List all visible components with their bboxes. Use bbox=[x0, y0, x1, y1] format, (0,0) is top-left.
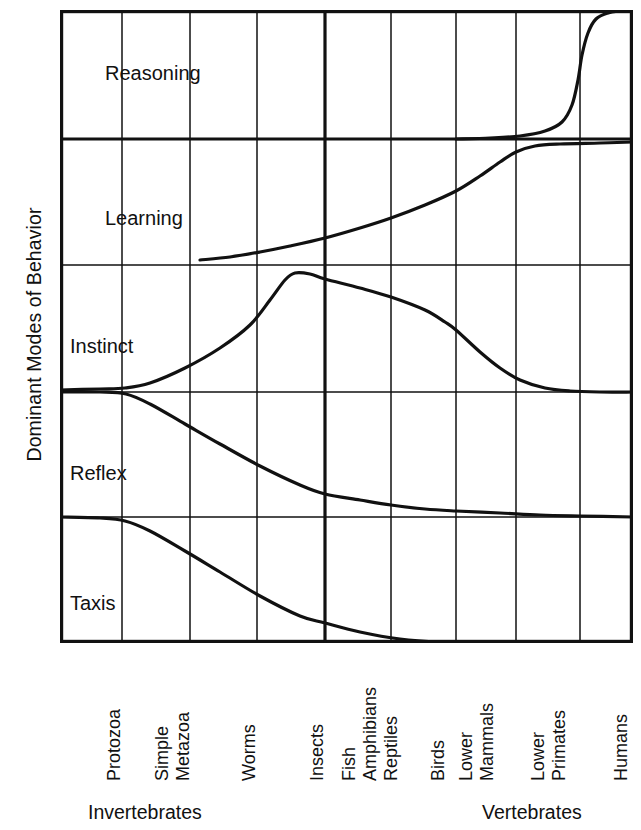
x-tick-amphibians: Amphibians bbox=[360, 687, 381, 781]
tick-label-line: Insects bbox=[307, 724, 327, 781]
tick-label-line: Birds bbox=[428, 740, 448, 781]
behavior-modes-chart-figure: Dominant Modes of Behavior ReasoningLear… bbox=[0, 0, 641, 830]
tick-label-line: Lower bbox=[456, 732, 476, 781]
tick-label-line: Humans bbox=[611, 714, 631, 781]
band-label-reflex: Reflex bbox=[70, 462, 127, 485]
x-tick-humans: Humans bbox=[611, 714, 632, 781]
curve-learning bbox=[200, 142, 633, 260]
band-label-reasoning: Reasoning bbox=[105, 62, 201, 85]
plot-area: ReasoningLearningInstinctReflexTaxis bbox=[60, 10, 633, 643]
x-tick-birds: Birds bbox=[428, 740, 449, 781]
x-tick-lower-mammals: LowerMammals bbox=[456, 703, 498, 781]
band-label-learning: Learning bbox=[105, 207, 183, 230]
vertical-gridlines bbox=[122, 10, 580, 643]
curve-reasoning bbox=[456, 10, 633, 139]
x-tick-fish: Fish bbox=[339, 747, 360, 781]
series-curves bbox=[60, 10, 633, 643]
tick-label-line: Protozoa bbox=[104, 709, 124, 781]
band-label-taxis: Taxis bbox=[70, 592, 116, 615]
tick-label-line: Fish bbox=[339, 747, 359, 781]
tick-label-line: Worms bbox=[239, 724, 259, 781]
tick-label-line: Metazoa bbox=[173, 712, 194, 781]
tick-label-line: Amphibians bbox=[360, 687, 380, 781]
curve-instinct bbox=[60, 273, 633, 392]
curve-taxis bbox=[60, 517, 633, 643]
y-axis-title: Dominant Modes of Behavior bbox=[23, 105, 46, 565]
x-tick-lower-primates: LowerPrimates bbox=[528, 710, 570, 781]
plot-frame bbox=[62, 12, 632, 642]
x-tick-simple-metazoa: SimpleMetazoa bbox=[152, 712, 194, 781]
tick-label-line: Lower bbox=[528, 732, 548, 781]
plot-svg bbox=[60, 10, 633, 643]
tick-label-line: Simple bbox=[152, 726, 172, 781]
x-tick-worms: Worms bbox=[239, 724, 260, 781]
x-tick-insects: Insects bbox=[307, 724, 328, 781]
tick-label-line: Reptiles bbox=[381, 716, 401, 781]
curve-reflex bbox=[60, 392, 633, 517]
band-label-instinct: Instinct bbox=[70, 335, 133, 358]
x-tick-reptiles: Reptiles bbox=[381, 716, 402, 781]
band-dividers bbox=[60, 139, 633, 517]
tick-label-line: Primates bbox=[549, 710, 570, 781]
tick-label-line: Mammals bbox=[477, 703, 498, 781]
group-caption-vertebrates: Vertebrates bbox=[482, 801, 582, 824]
x-tick-protozoa: Protozoa bbox=[104, 709, 125, 781]
group-caption-invertebrates: Invertebrates bbox=[88, 801, 202, 824]
